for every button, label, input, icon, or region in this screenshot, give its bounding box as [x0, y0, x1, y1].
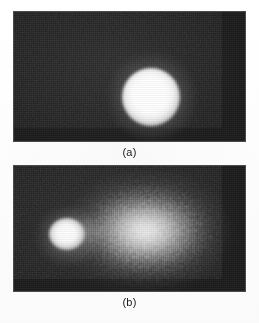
figure-root: (a)	[0, 0, 259, 323]
panel-b-dark-field	[14, 166, 245, 291]
panel-b-caption: (b)	[0, 296, 259, 309]
panel-a-caption: (a)	[0, 146, 259, 159]
panel-a-image	[14, 12, 245, 141]
panel-a-dark-field	[14, 12, 245, 141]
panel-b-image	[14, 166, 245, 291]
